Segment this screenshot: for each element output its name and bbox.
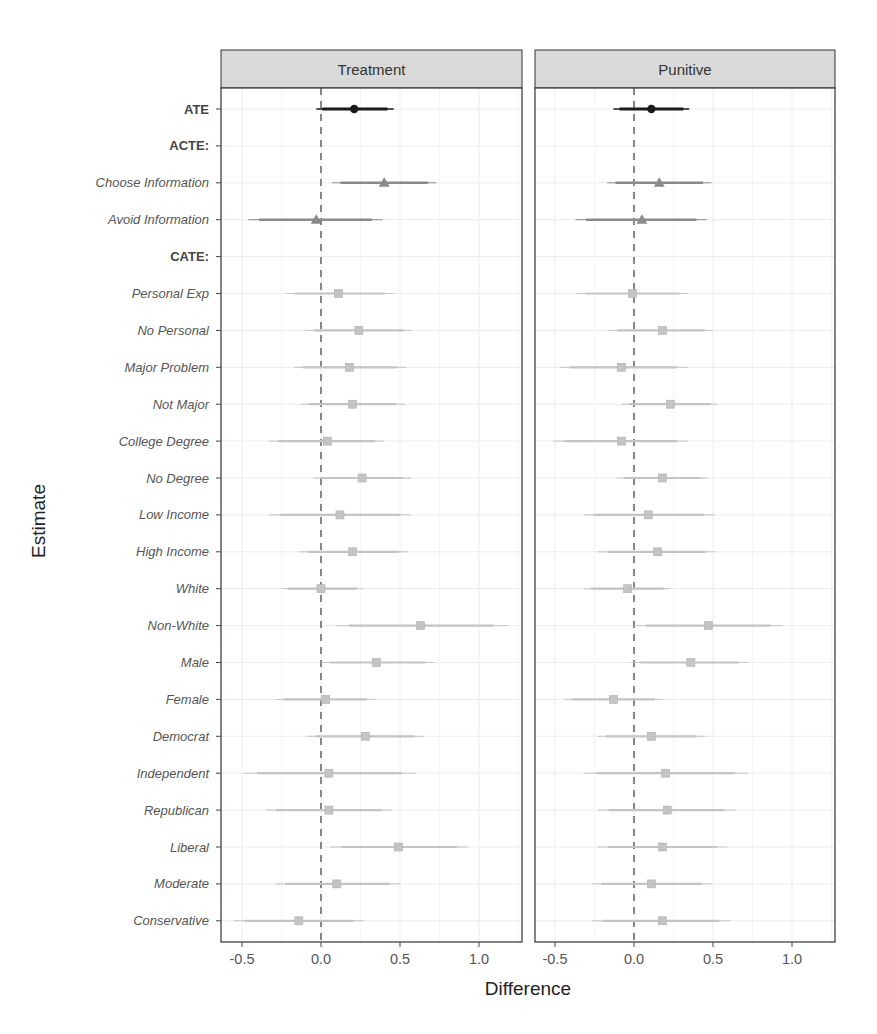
strip-label-treatment: Treatment (338, 61, 407, 78)
estimate-square-marker (628, 290, 636, 298)
estimate-square-marker (334, 290, 342, 298)
y-label: Moderate (154, 876, 209, 891)
y-axis-labels: ATEACTE:Choose InformationAvoid Informat… (96, 102, 221, 929)
x-axis-punitive: -0.50.00.51.0 (543, 942, 803, 967)
estimate-square-marker (704, 622, 712, 630)
estimate-square-marker (624, 585, 632, 593)
x-tick-label: 1.0 (469, 951, 489, 967)
estimate-circle-marker (350, 105, 358, 113)
estimate-square-marker (609, 695, 617, 703)
estimate-square-marker (644, 511, 652, 519)
y-label: ATE (184, 102, 209, 117)
estimate-square-marker (317, 585, 325, 593)
x-tick-label: 0.0 (311, 951, 331, 967)
y-label: No Personal (137, 323, 210, 338)
estimate-square-marker (647, 880, 655, 888)
estimate-square-marker (295, 917, 303, 925)
x-tick-label: 0.5 (703, 951, 723, 967)
estimate-square-marker (658, 326, 666, 334)
x-tick-label: 0.0 (624, 951, 644, 967)
estimate-square-marker (345, 363, 353, 371)
estimate-square-marker (325, 806, 333, 814)
estimate-square-marker (333, 880, 341, 888)
y-label: Major Problem (124, 360, 209, 375)
y-label: Liberal (170, 840, 210, 855)
x-tick-label: 0.5 (390, 951, 410, 967)
y-label: Male (181, 655, 209, 670)
estimate-square-marker (617, 363, 625, 371)
estimate-square-marker (355, 326, 363, 334)
estimate-square-marker (336, 511, 344, 519)
y-label: High Income (136, 544, 209, 559)
estimate-square-marker (658, 917, 666, 925)
x-axis-title: Difference (485, 978, 571, 999)
estimate-square-marker (322, 695, 330, 703)
x-axis-treatment: -0.50.00.51.0 (230, 942, 490, 967)
estimate-square-marker (417, 622, 425, 630)
estimate-square-marker (349, 400, 357, 408)
y-label: Personal Exp (132, 286, 209, 301)
y-label: Conservative (133, 913, 209, 928)
y-label: White (176, 581, 209, 596)
y-label: Choose Information (96, 175, 209, 190)
y-label: No Degree (146, 471, 209, 486)
estimate-square-marker (658, 843, 666, 851)
estimate-circle-marker (647, 105, 655, 113)
estimate-square-marker (372, 659, 380, 667)
estimate-square-marker (663, 806, 671, 814)
x-tick-label: 1.0 (782, 951, 802, 967)
panel-treatment: Treatment -0.50.00.51.0 (221, 50, 522, 967)
y-label: Avoid Information (107, 212, 209, 227)
estimate-square-marker (666, 400, 674, 408)
estimate-square-marker (662, 769, 670, 777)
estimate-square-marker (349, 548, 357, 556)
y-label: Female (166, 692, 209, 707)
estimate-square-marker (687, 659, 695, 667)
y-label: ACTE: (169, 138, 209, 153)
y-label: CATE: (170, 249, 209, 264)
y-label: Non-White (148, 618, 209, 633)
estimate-square-marker (361, 732, 369, 740)
y-label: Not Major (153, 397, 210, 412)
x-tick-label: -0.5 (230, 951, 255, 967)
x-tick-label: -0.5 (543, 951, 568, 967)
y-axis-title: Estimate (28, 484, 49, 558)
estimate-square-marker (658, 474, 666, 482)
estimate-square-marker (654, 548, 662, 556)
y-label: Democrat (153, 729, 211, 744)
estimate-square-marker (394, 843, 402, 851)
y-label: Independent (137, 766, 211, 781)
y-label: Republican (144, 803, 209, 818)
forest-plot: Estimate Difference Treatment -0.50.00.5… (0, 0, 877, 1034)
estimate-square-marker (358, 474, 366, 482)
panel-punitive: Punitive -0.50.00.51.0 (535, 50, 835, 967)
estimate-square-marker (647, 732, 655, 740)
y-label: Low Income (139, 507, 209, 522)
y-label: College Degree (119, 434, 209, 449)
estimate-square-marker (325, 769, 333, 777)
strip-label-punitive: Punitive (658, 61, 711, 78)
estimate-square-marker (617, 437, 625, 445)
estimate-square-marker (323, 437, 331, 445)
